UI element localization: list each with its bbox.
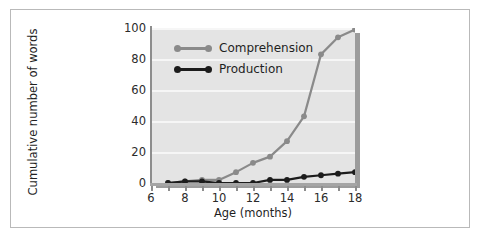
y-tick-label: 60 bbox=[131, 83, 146, 97]
legend-label: Production bbox=[219, 62, 283, 76]
legend-marker-icon bbox=[174, 43, 212, 53]
x-tick bbox=[168, 186, 170, 191]
data-point bbox=[318, 172, 324, 178]
x-tick bbox=[270, 186, 272, 191]
x-tick bbox=[236, 186, 238, 191]
data-point bbox=[250, 160, 256, 166]
x-tick-label: 12 bbox=[246, 191, 261, 205]
x-tick-label: 6 bbox=[147, 191, 154, 205]
x-tick bbox=[338, 186, 340, 191]
y-tick-label: 80 bbox=[131, 52, 146, 66]
series-line-production bbox=[168, 172, 355, 183]
y-axis-title: Cumulative number of words bbox=[26, 27, 40, 197]
x-tick-label: 8 bbox=[181, 191, 188, 205]
x-tick-label: 16 bbox=[314, 191, 329, 205]
data-point bbox=[284, 177, 290, 183]
x-tick-label: 18 bbox=[348, 191, 363, 205]
data-point bbox=[267, 154, 273, 160]
legend: ComprehensionProduction bbox=[174, 40, 313, 82]
y-tick-label: 20 bbox=[131, 145, 146, 159]
x-tick-label: 10 bbox=[212, 191, 227, 205]
legend-item-production: Production bbox=[174, 61, 313, 77]
y-tick-label: 100 bbox=[124, 21, 146, 35]
legend-label: Comprehension bbox=[219, 41, 313, 55]
x-tick bbox=[202, 186, 204, 191]
y-tick-label: 0 bbox=[139, 176, 146, 190]
y-axis-tick-labels: 020406080100 bbox=[118, 0, 146, 244]
legend-item-comprehension: Comprehension bbox=[174, 40, 313, 56]
x-tick-label: 14 bbox=[280, 191, 295, 205]
y-axis-line bbox=[150, 26, 152, 185]
data-point bbox=[301, 113, 307, 119]
x-tick bbox=[304, 186, 306, 191]
data-point bbox=[335, 171, 341, 177]
data-point bbox=[284, 138, 290, 144]
y-tick-label: 40 bbox=[131, 114, 146, 128]
figure: Cumulative number of words 020406080100 … bbox=[0, 0, 489, 244]
data-point bbox=[267, 177, 273, 183]
data-point bbox=[233, 169, 239, 175]
data-point bbox=[352, 169, 355, 175]
data-point bbox=[318, 51, 324, 57]
data-point bbox=[301, 174, 307, 180]
legend-marker-icon bbox=[174, 64, 212, 74]
x-axis-title: Age (months) bbox=[151, 206, 355, 220]
data-point bbox=[335, 34, 341, 40]
